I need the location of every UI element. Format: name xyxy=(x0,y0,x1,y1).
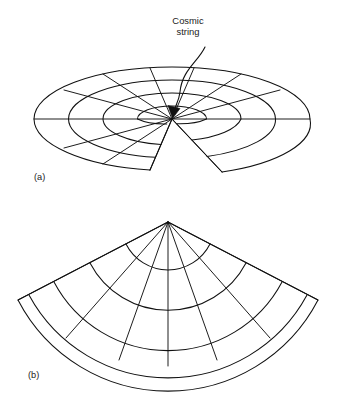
panel-a-spoke-12 xyxy=(172,90,280,119)
panel-b-spoke-6 xyxy=(168,222,270,338)
panel-b-label: (b) xyxy=(28,370,39,380)
panel-a-spoke-4 xyxy=(103,119,172,164)
panel-b-spoke-7 xyxy=(168,222,318,300)
panel-b-spokes xyxy=(18,222,318,366)
panel-a-spoke-7 xyxy=(64,90,172,119)
panel-a-spoke-8 xyxy=(103,74,172,119)
cosmic-string-figure: Cosmic string (a) xyxy=(0,0,340,403)
callout-arrowhead xyxy=(168,106,180,119)
panel-b-spoke-2 xyxy=(66,222,168,338)
panel-a-group: Cosmic string (a) xyxy=(34,15,311,182)
cosmic-string-label-line2: string xyxy=(177,26,200,37)
panel-b-spoke-1 xyxy=(18,222,168,300)
panel-b-spoke-5 xyxy=(168,222,217,360)
panel-b-spoke-3 xyxy=(119,222,168,360)
figure-root: Cosmic string (a) xyxy=(0,0,340,403)
panel-a-label: (a) xyxy=(34,172,45,182)
cosmic-string-label-line1: Cosmic xyxy=(172,15,204,26)
cosmic-string-callout xyxy=(168,47,205,119)
panel-b-group: (b) xyxy=(18,222,318,391)
panel-a-wedge-cut-edges xyxy=(150,119,222,172)
panel-a-wedge-edge-leading xyxy=(172,119,222,172)
